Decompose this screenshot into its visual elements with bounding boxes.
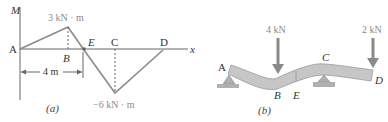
ground-c bbox=[313, 82, 335, 87]
deflected-beam bbox=[228, 64, 373, 90]
point-label-b: B bbox=[63, 52, 70, 64]
axis-label-m: M bbox=[10, 4, 21, 16]
point-label-d: D bbox=[160, 36, 168, 48]
ground-a bbox=[217, 84, 239, 88]
load-arrow-d-icon bbox=[367, 58, 379, 68]
point-label-e: E bbox=[87, 36, 95, 48]
beam-figure: M x A B E C D 3 kN · m −6 kN · m 4 m (a)… bbox=[0, 0, 388, 122]
min-moment-label: −6 kN · m bbox=[93, 99, 135, 110]
beam-label-c: C bbox=[322, 51, 330, 63]
beam-label-d: D bbox=[374, 74, 383, 86]
moment-diagram: M x A B E C D 3 kN · m −6 kN · m 4 m (a) bbox=[9, 4, 195, 115]
beam-label-e: E bbox=[292, 89, 300, 101]
beam-label-a: A bbox=[218, 61, 226, 73]
point-label-c: C bbox=[111, 36, 118, 48]
load-label-b: 4 kN bbox=[266, 24, 286, 35]
dimension-label: 4 m bbox=[43, 66, 59, 77]
load-label-d: 2 kN bbox=[362, 24, 382, 35]
beam-label-b: B bbox=[274, 89, 281, 101]
max-moment-label: 3 kN · m bbox=[48, 12, 84, 23]
load-arrow-b-icon bbox=[272, 64, 284, 74]
point-e-marker bbox=[82, 47, 86, 51]
caption-b: (b) bbox=[258, 104, 271, 117]
axis-label-x: x bbox=[189, 43, 195, 55]
roller-support-icon bbox=[318, 75, 330, 82]
dimension-arrow-right-icon bbox=[77, 70, 82, 75]
dimension-arrow-left-icon bbox=[21, 70, 26, 75]
beam-diagram: 4 kN 2 kN A B E C D (b) bbox=[217, 24, 383, 117]
caption-a: (a) bbox=[46, 102, 59, 115]
point-label-a: A bbox=[9, 43, 17, 55]
